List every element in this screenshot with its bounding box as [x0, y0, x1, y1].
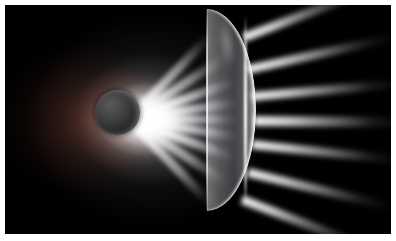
sphere-rim-light: [95, 90, 140, 135]
refracted-ray: [243, 5, 386, 41]
refracted-ray: [254, 116, 391, 127]
refracted-ray: [247, 32, 391, 74]
image-frame: Refraction through a plano-convex lens: [0, 0, 396, 241]
lens-flat-face: [206, 10, 208, 210]
refracted-ray: [252, 79, 391, 101]
render-canvas: Refraction through a plano-convex lens: [5, 5, 391, 234]
refracted-ray: [252, 140, 391, 165]
